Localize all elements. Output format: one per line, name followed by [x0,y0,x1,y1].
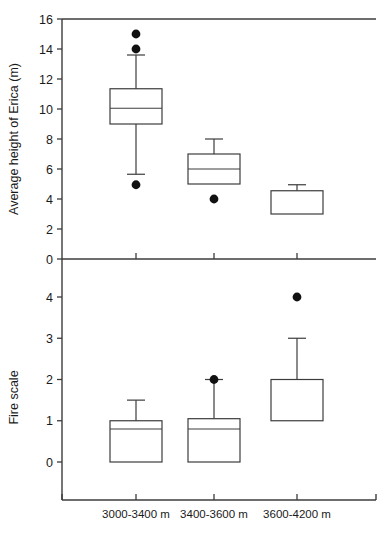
top-outlier-1-0 [210,195,219,204]
top-outlier-0-0 [132,180,141,189]
bottom-y-axis-label: Fire scale [7,370,21,424]
top-y-tick-label-16: 16 [39,13,53,27]
x-category-label-1: 3400-3600 m [180,508,248,520]
bottom-y-tick-label-3: 3 [46,332,53,346]
top-box-2 [271,191,323,214]
top-y-tick-label-4: 4 [46,193,53,207]
top-y-tick-label-10: 10 [39,103,53,117]
bottom-box-1 [188,419,240,462]
bottom-y-tick-label-1: 1 [46,414,53,428]
x-category-label-0: 3000-3400 m [102,508,170,520]
top-y-tick-label-12: 12 [39,73,53,87]
bottom-y-tick-label-0: 0 [46,456,53,470]
x-category-label-2: 3600-4200 m [263,508,331,520]
top-y-tick-label-2: 2 [46,223,53,237]
top-y-tick-label-8: 8 [46,133,53,147]
figure-container: 0246810121416Average height of Erica (m)… [0,0,385,534]
boxplot-figure: 0246810121416Average height of Erica (m)… [0,0,385,534]
bottom-box-2 [271,380,323,421]
top-y-axis-label: Average height of Erica (m) [7,63,21,215]
top-box-0 [110,89,162,124]
top-y-tick-label-6: 6 [46,163,53,177]
top-outlier-0-2 [132,30,141,39]
top-outlier-0-1 [132,45,141,54]
bottom-outlier-1-0 [210,375,219,384]
bottom-outlier-2-0 [293,293,302,302]
bottom-y-tick-label-2: 2 [46,373,53,387]
top-y-tick-label-14: 14 [39,43,53,57]
bottom-box-0 [110,421,162,462]
bottom-y-tick-label-4: 4 [46,291,53,305]
top-y-tick-label-0: 0 [46,253,53,267]
